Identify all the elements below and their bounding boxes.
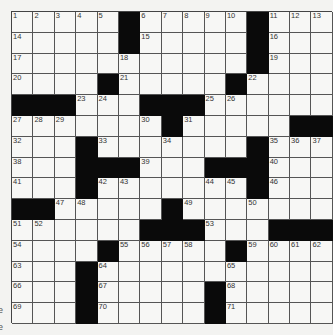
grid-cell[interactable] — [119, 303, 140, 324]
grid-cell[interactable] — [55, 33, 76, 54]
grid-cell[interactable]: 54 — [12, 241, 33, 262]
grid-cell[interactable]: 29 — [55, 116, 76, 137]
grid-cell[interactable]: 52 — [33, 220, 54, 241]
grid-cell[interactable] — [183, 262, 204, 283]
grid-cell[interactable] — [55, 220, 76, 241]
grid-cell[interactable]: 9 — [205, 12, 226, 33]
grid-cell[interactable] — [140, 54, 161, 75]
grid-cell[interactable] — [98, 220, 119, 241]
grid-cell[interactable]: 3 — [55, 12, 76, 33]
grid-cell[interactable] — [162, 33, 183, 54]
grid-cell[interactable]: 39 — [140, 158, 161, 179]
grid-cell[interactable]: 51 — [12, 220, 33, 241]
grid-cell[interactable] — [290, 158, 311, 179]
grid-cell[interactable]: 31 — [183, 116, 204, 137]
grid-cell[interactable] — [311, 178, 332, 199]
grid-cell[interactable] — [76, 54, 97, 75]
grid-cell[interactable]: 2 — [33, 12, 54, 33]
grid-cell[interactable] — [119, 116, 140, 137]
grid-cell[interactable]: 55 — [119, 241, 140, 262]
grid-cell[interactable] — [76, 241, 97, 262]
grid-cell[interactable] — [55, 54, 76, 75]
grid-cell[interactable]: 17 — [12, 54, 33, 75]
grid-cell[interactable]: 43 — [119, 178, 140, 199]
grid-cell[interactable] — [140, 74, 161, 95]
grid-cell[interactable] — [311, 199, 332, 220]
grid-cell[interactable] — [290, 199, 311, 220]
grid-cell[interactable]: 24 — [98, 95, 119, 116]
grid-cell[interactable]: 26 — [226, 95, 247, 116]
grid-cell[interactable]: 68 — [226, 282, 247, 303]
grid-cell[interactable] — [205, 54, 226, 75]
grid-cell[interactable] — [76, 116, 97, 137]
grid-cell[interactable] — [140, 282, 161, 303]
grid-cell[interactable] — [140, 262, 161, 283]
grid-cell[interactable]: 15 — [140, 33, 161, 54]
grid-cell[interactable]: 46 — [269, 178, 290, 199]
grid-cell[interactable]: 13 — [311, 12, 332, 33]
grid-cell[interactable] — [33, 178, 54, 199]
grid-cell[interactable] — [162, 74, 183, 95]
grid-cell[interactable] — [55, 158, 76, 179]
grid-cell[interactable] — [269, 116, 290, 137]
grid-cell[interactable]: 71 — [226, 303, 247, 324]
grid-cell[interactable] — [311, 74, 332, 95]
grid-cell[interactable] — [205, 116, 226, 137]
grid-cell[interactable]: 4 — [76, 12, 97, 33]
grid-cell[interactable] — [98, 33, 119, 54]
grid-cell[interactable]: 33 — [98, 137, 119, 158]
grid-cell[interactable] — [290, 303, 311, 324]
grid-cell[interactable] — [247, 95, 268, 116]
grid-cell[interactable] — [290, 262, 311, 283]
grid-cell[interactable]: 65 — [226, 262, 247, 283]
grid-cell[interactable]: 28 — [33, 116, 54, 137]
grid-cell[interactable] — [311, 303, 332, 324]
grid-cell[interactable] — [183, 178, 204, 199]
grid-cell[interactable]: 60 — [269, 241, 290, 262]
grid-cell[interactable]: 62 — [311, 241, 332, 262]
grid-cell[interactable]: 21 — [119, 74, 140, 95]
grid-cell[interactable] — [205, 137, 226, 158]
grid-cell[interactable] — [290, 74, 311, 95]
grid-cell[interactable] — [205, 74, 226, 95]
grid-cell[interactable]: 45 — [226, 178, 247, 199]
grid-cell[interactable] — [311, 158, 332, 179]
grid-cell[interactable] — [183, 158, 204, 179]
grid-cell[interactable] — [140, 137, 161, 158]
grid-cell[interactable] — [226, 54, 247, 75]
grid-cell[interactable] — [119, 282, 140, 303]
grid-cell[interactable] — [55, 178, 76, 199]
grid-cell[interactable]: 12 — [290, 12, 311, 33]
grid-cell[interactable] — [247, 262, 268, 283]
grid-cell[interactable] — [290, 95, 311, 116]
grid-cell[interactable] — [33, 74, 54, 95]
grid-cell[interactable]: 67 — [98, 282, 119, 303]
grid-cell[interactable]: 36 — [290, 137, 311, 158]
grid-cell[interactable]: 61 — [290, 241, 311, 262]
grid-cell[interactable]: 25 — [205, 95, 226, 116]
grid-cell[interactable] — [183, 137, 204, 158]
grid-cell[interactable]: 22 — [247, 74, 268, 95]
grid-cell[interactable] — [140, 178, 161, 199]
grid-cell[interactable]: 20 — [12, 74, 33, 95]
grid-cell[interactable] — [140, 199, 161, 220]
grid-cell[interactable] — [269, 74, 290, 95]
grid-cell[interactable] — [76, 74, 97, 95]
grid-cell[interactable]: 63 — [12, 262, 33, 283]
grid-cell[interactable]: 40 — [269, 158, 290, 179]
grid-cell[interactable] — [247, 116, 268, 137]
grid-cell[interactable] — [33, 303, 54, 324]
grid-cell[interactable] — [55, 303, 76, 324]
grid-cell[interactable]: 49 — [183, 199, 204, 220]
grid-cell[interactable] — [162, 178, 183, 199]
grid-cell[interactable]: 19 — [269, 54, 290, 75]
grid-cell[interactable] — [183, 33, 204, 54]
grid-cell[interactable] — [119, 199, 140, 220]
grid-cell[interactable]: 30 — [140, 116, 161, 137]
grid-cell[interactable] — [290, 178, 311, 199]
grid-cell[interactable] — [55, 282, 76, 303]
grid-cell[interactable]: 48 — [76, 199, 97, 220]
grid-cell[interactable]: 6 — [140, 12, 161, 33]
grid-cell[interactable] — [162, 262, 183, 283]
grid-cell[interactable] — [162, 158, 183, 179]
